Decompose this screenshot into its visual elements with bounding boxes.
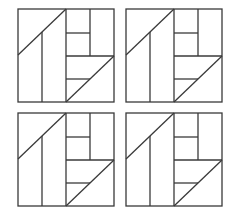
block-top-right xyxy=(126,9,222,102)
block-top-left xyxy=(18,9,114,102)
block-bottom-left xyxy=(18,113,114,206)
block-bottom-right xyxy=(126,113,222,206)
quilt-pattern-diagram xyxy=(0,0,237,216)
